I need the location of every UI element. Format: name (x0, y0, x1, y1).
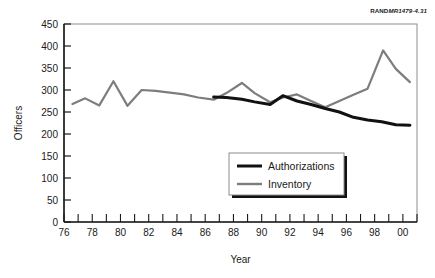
y-tick-label: 250 (41, 107, 58, 118)
y-tick-label: 50 (47, 195, 59, 206)
y-tick-label: 150 (41, 151, 58, 162)
y-axis-tick-labels: 050100150200250300350400450 (41, 19, 58, 228)
x-tick-label: 92 (284, 227, 296, 238)
x-tick-label: 00 (397, 227, 409, 238)
x-tick-label: 94 (313, 227, 325, 238)
figure-credit-code: MR1479-4.31 (388, 7, 427, 14)
y-tick-label: 100 (41, 173, 58, 184)
y-tick-label: 0 (52, 217, 58, 228)
x-tick-label: 78 (87, 227, 99, 238)
x-tick-label: 98 (369, 227, 381, 238)
legend-label-inventory: Inventory (268, 178, 312, 190)
chart-figure: RANDMR1479-4.31 050100150200250300350400… (0, 0, 435, 278)
x-tick-label: 86 (200, 227, 212, 238)
x-tick-label: 90 (256, 227, 268, 238)
x-tick-label: 76 (58, 227, 70, 238)
x-tick-label: 82 (143, 227, 155, 238)
y-tick-label: 350 (41, 63, 58, 74)
x-tick-label: 84 (171, 227, 183, 238)
chart-legend: AuthorizationsInventory (229, 153, 347, 198)
y-tick-label: 200 (41, 129, 58, 140)
y-tick-label: 300 (41, 85, 58, 96)
x-tick-label: 88 (228, 227, 240, 238)
x-tick-label: 80 (115, 227, 127, 238)
figure-credit: RANDMR1479-4.31 (370, 8, 427, 14)
x-axis-title: Year (230, 254, 251, 265)
line-chart-plot: 050100150200250300350400450 767880828486… (0, 0, 435, 278)
y-axis-title: Officers (13, 106, 24, 140)
x-axis-tick-labels: 76788082848688909294969800 (58, 227, 408, 238)
figure-credit-brand: RAND (370, 7, 388, 14)
y-tick-label: 450 (41, 19, 58, 30)
y-tick-label: 400 (41, 41, 58, 52)
legend-label-authorizations: Authorizations (268, 160, 335, 172)
x-tick-label: 96 (341, 227, 353, 238)
